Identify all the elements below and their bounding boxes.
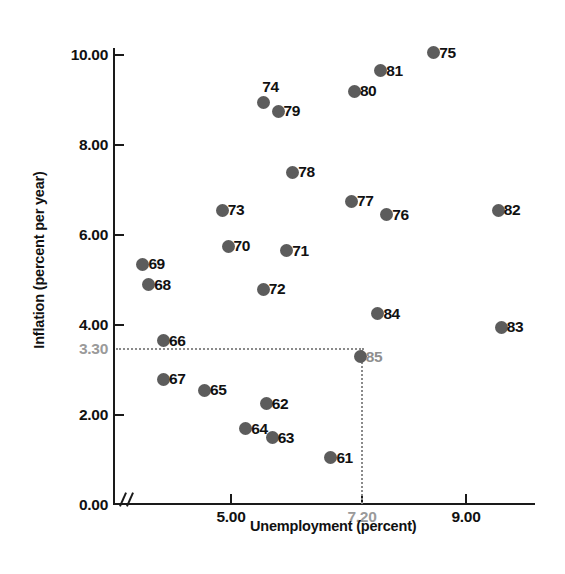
- data-point-label-79: 79: [284, 102, 300, 120]
- data-point-label-70: 70: [234, 237, 250, 255]
- data-point-label-77: 77: [357, 192, 373, 210]
- data-point-label-74: 74: [262, 78, 278, 96]
- data-point-label-65: 65: [210, 381, 226, 399]
- data-point-label-61: 61: [336, 449, 352, 467]
- data-point-label-64: 64: [251, 420, 267, 438]
- data-point-label-83: 83: [507, 318, 523, 336]
- data-point-label-81: 81: [386, 62, 402, 80]
- data-point-label-73: 73: [228, 201, 244, 219]
- data-point-label-84: 84: [383, 305, 399, 323]
- data-point-label-66: 66: [169, 332, 185, 350]
- data-point-label-82: 82: [504, 201, 520, 219]
- data-point-74: [257, 96, 270, 109]
- data-point-label-80: 80: [360, 82, 376, 100]
- data-point-label-76: 76: [392, 206, 408, 224]
- figure-caption: [28, 556, 548, 574]
- data-point-label-71: 71: [292, 242, 308, 260]
- data-point-label-78: 78: [298, 163, 314, 181]
- data-points-layer: 6162636465666768697071727374797576777880…: [0, 0, 565, 574]
- scatter-chart: 10.00 8.00 6.00 4.00 3.30 2.00 0.00 5.00…: [0, 0, 565, 574]
- data-point-label-75: 75: [439, 44, 455, 62]
- data-point-label-69: 69: [148, 255, 164, 273]
- data-point-label-85: 85: [366, 348, 382, 366]
- data-point-label-63: 63: [278, 429, 294, 447]
- data-point-label-68: 68: [154, 276, 170, 294]
- data-point-label-67: 67: [169, 370, 185, 388]
- data-point-label-72: 72: [269, 280, 285, 298]
- data-point-label-62: 62: [272, 395, 288, 413]
